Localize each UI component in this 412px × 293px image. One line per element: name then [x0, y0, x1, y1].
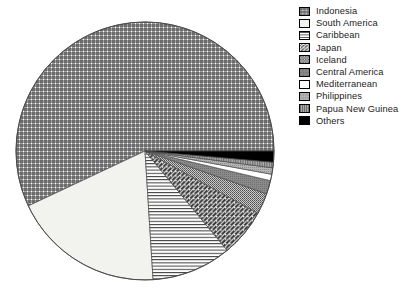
legend-item-label: Central America	[316, 67, 384, 77]
legend-swatch-dark-gray-solid-icon	[299, 68, 310, 77]
legend-item[interactable]: Caribbean	[299, 29, 412, 41]
legend-item[interactable]: South America	[299, 17, 412, 29]
legend-item-label: Mediterranean	[316, 79, 377, 89]
legend-item-label: Japan	[316, 43, 342, 53]
legend-item-label: Papua New Guinea	[316, 104, 398, 114]
legend-item[interactable]: Japan	[299, 42, 412, 54]
chart-legend: IndonesiaSouth AmericaCaribbeanJapanIcel…	[299, 5, 412, 127]
legend-item[interactable]: Indonesia	[299, 5, 412, 17]
legend-item-label: Indonesia	[316, 6, 357, 16]
legend-item-label: Philippines	[316, 91, 362, 101]
legend-swatch-cross-hatch-grid-icon	[299, 7, 310, 16]
legend-item-label: South America	[316, 18, 378, 28]
legend-item[interactable]: Papua New Guinea	[299, 103, 412, 115]
pie-chart-figure: IndonesiaSouth AmericaCaribbeanJapanIcel…	[0, 0, 412, 293]
legend-item[interactable]: Mediterranean	[299, 78, 412, 90]
pie-svg	[0, 0, 300, 293]
legend-item[interactable]: Iceland	[299, 54, 412, 66]
legend-item[interactable]: Central America	[299, 66, 412, 78]
legend-item-label: Caribbean	[316, 30, 360, 40]
legend-swatch-solid-black-icon	[299, 116, 310, 125]
legend-item[interactable]: Others	[299, 115, 412, 127]
legend-swatch-fine-stipple-icon	[299, 55, 310, 64]
legend-item[interactable]: Philippines	[299, 90, 412, 102]
legend-item-label: Others	[316, 116, 345, 126]
legend-item-label: Iceland	[316, 55, 347, 65]
legend-swatch-light-gray-stipple-icon	[299, 92, 310, 101]
legend-swatch-diagonal-hatch-icon	[299, 43, 310, 52]
legend-swatch-blank-light-icon	[299, 19, 310, 28]
pie-plot-area	[0, 0, 300, 293]
legend-swatch-white-blank-icon	[299, 80, 310, 89]
legend-swatch-horizontal-lines-icon	[299, 31, 310, 40]
legend-swatch-gray-vertical-lines-icon	[299, 104, 310, 113]
pie-slices	[16, 22, 274, 280]
